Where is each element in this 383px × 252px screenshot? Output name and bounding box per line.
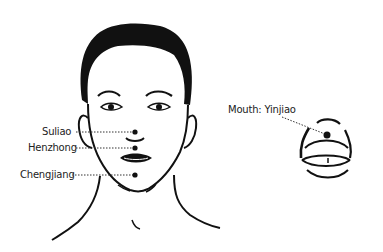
label-yinjiao: Mouth: Yinjiao xyxy=(228,104,296,116)
mouth-detail xyxy=(301,119,351,177)
nose xyxy=(126,138,144,141)
point-suliao xyxy=(132,129,137,134)
left-eyebrow xyxy=(98,92,120,97)
neck-left xyxy=(52,176,100,240)
right-eyebrow xyxy=(146,92,172,97)
point-henzhong xyxy=(132,145,137,150)
hair xyxy=(81,24,192,105)
label-suliao: Suliao xyxy=(42,126,71,138)
label-chengjiang: Chengjiang xyxy=(20,169,75,181)
label-henzhong: Henzhong xyxy=(28,142,77,154)
collarbone xyxy=(132,220,140,229)
neck-right xyxy=(174,175,220,228)
point-yinjiao xyxy=(324,132,331,139)
point-chengjiang xyxy=(132,172,137,177)
